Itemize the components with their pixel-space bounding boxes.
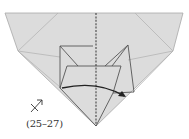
step-range-label: (25–27): [26, 118, 63, 129]
paper-body: [5, 13, 183, 126]
view-arrow-icon: [31, 100, 42, 112]
